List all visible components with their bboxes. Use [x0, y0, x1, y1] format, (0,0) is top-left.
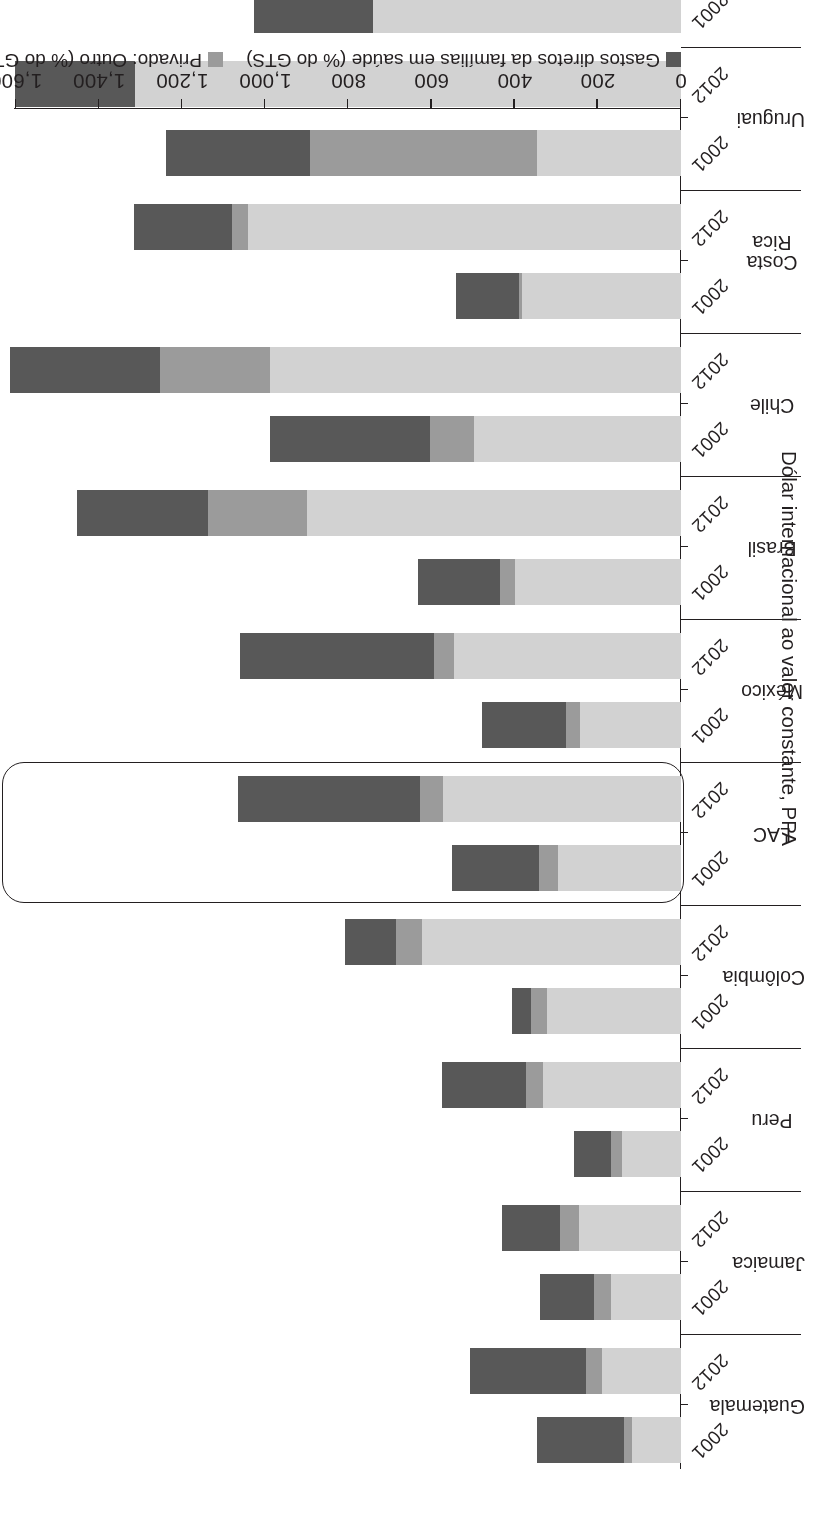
group-separator [681, 1334, 801, 1335]
year-label-uruguai-2001: 2001 [682, 126, 739, 183]
bar-segment-publico [307, 490, 681, 536]
bar-segment-publico [547, 988, 681, 1034]
category-label-lac: LAC [739, 825, 805, 845]
value-axis-tick-label: 1,600 [0, 69, 82, 93]
bar-segment-privado_outro [430, 416, 474, 462]
category-label-costa-rica: Costa Rica [739, 233, 805, 274]
bar-segment-publico [632, 1417, 681, 1463]
bar-méxico-2012 [240, 633, 681, 679]
category-tick [681, 117, 688, 118]
bar-méxico-2001 [482, 702, 681, 748]
category-tick [681, 1261, 688, 1262]
bar-segment-gastos_diretos [574, 1131, 611, 1177]
category-label-uruguai: Uruguai [739, 110, 805, 130]
bar-segment-gastos_diretos [540, 1274, 594, 1320]
bar-guatemala-2001 [537, 1417, 681, 1463]
bar-segment-gastos_diretos [502, 1205, 560, 1251]
bar-segment-privado_outro [434, 633, 454, 679]
bar-segment-gastos_diretos [537, 1417, 625, 1463]
bar-chile-2012 [10, 347, 681, 393]
bar-segment-privado_outro [500, 559, 515, 605]
bar-chile-2001 [270, 416, 681, 462]
bar-segment-privado_outro [586, 1348, 602, 1394]
bar-segment-publico [580, 702, 681, 748]
legend-item: Gastos diretos da famílias em saúde (% d… [246, 49, 681, 71]
group-separator [681, 1191, 801, 1192]
group-separator [681, 905, 801, 906]
bar-segment-gastos_diretos [512, 988, 532, 1034]
category-tick [681, 1404, 688, 1405]
bar-peru-2012 [442, 1062, 681, 1108]
bar-segment-gastos_diretos [456, 273, 519, 319]
year-label-jamaica-2012: 2012 [682, 1201, 739, 1258]
bar-costa-rica-2001 [456, 273, 681, 319]
year-label-costa-rica-2001: 2001 [682, 269, 739, 326]
category-label-guatemala: Guatemala [739, 1397, 805, 1417]
year-label-colômbia-2001: 2001 [682, 984, 739, 1041]
bar-peru-2001 [574, 1131, 681, 1177]
category-tick [681, 546, 688, 547]
group-separator [681, 619, 801, 620]
legend-swatch-icon [208, 53, 223, 68]
group-separator [681, 190, 801, 191]
bar-segment-gastos_diretos [270, 416, 430, 462]
year-label-costa-rica-2012: 2012 [682, 200, 739, 257]
bar-segment-publico [373, 0, 681, 33]
bar-segment-privado_outro [232, 204, 247, 250]
bar-segment-privado_outro [531, 988, 547, 1034]
year-label-chile-2001: 2001 [682, 412, 739, 469]
bar-argentina-2001 [254, 0, 681, 33]
group-separator [681, 762, 801, 763]
bar-segment-gastos_diretos [77, 490, 208, 536]
bar-segment-privado_outro [560, 1205, 579, 1251]
bar-colômbia-2001 [512, 988, 681, 1034]
bar-jamaica-2012 [502, 1205, 681, 1251]
category-tick [681, 689, 688, 690]
bar-segment-publico [543, 1062, 681, 1108]
year-label-méxico-2001: 2001 [682, 698, 739, 755]
bar-colômbia-2012 [345, 919, 681, 965]
bar-segment-privado_outro [566, 702, 580, 748]
bar-segment-publico [537, 130, 681, 176]
value-axis-baseline [14, 108, 681, 109]
bar-segment-privado_outro [611, 1131, 622, 1177]
bar-segment-privado_outro [594, 1274, 611, 1320]
year-label-peru-2001: 2001 [682, 1127, 739, 1184]
bar-segment-publico [474, 416, 681, 462]
category-label-jamaica: Jamaica [739, 1254, 805, 1274]
year-label-chile-2012: 2012 [682, 343, 739, 400]
bar-segment-privado_outro [160, 347, 270, 393]
year-label-argentina-2001: 2001 [682, 0, 739, 39]
bar-guatemala-2012 [470, 1348, 681, 1394]
plot-area: Dólar internacional ao valor constante, … [0, 0, 827, 1521]
group-separator [681, 476, 801, 477]
year-label-guatemala-2012: 2012 [682, 1344, 739, 1401]
bar-uruguai-2001 [166, 130, 681, 176]
legend-item: Privado: Outro (% do GTS) [0, 49, 223, 71]
year-label-guatemala-2001: 2001 [682, 1413, 739, 1470]
category-tick [681, 975, 688, 976]
year-label-brasil-2012: 2012 [682, 486, 739, 543]
bar-segment-publico [515, 559, 681, 605]
bar-segment-publico [602, 1348, 681, 1394]
bar-segment-privado_outro [625, 1417, 632, 1463]
bar-brasil-2001 [418, 559, 682, 605]
bar-segment-gastos_diretos [240, 633, 434, 679]
year-label-brasil-2001: 2001 [682, 555, 739, 612]
year-label-colômbia-2012: 2012 [682, 915, 739, 972]
category-tick [681, 1118, 688, 1119]
bar-segment-privado_outro [526, 1062, 543, 1108]
year-label-méxico-2012: 2012 [682, 629, 739, 686]
category-tick [681, 403, 688, 404]
bar-segment-gastos_diretos [134, 204, 232, 250]
bar-segment-privado_outro [310, 130, 537, 176]
category-tick [681, 260, 688, 261]
chart-figure: Dólar internacional ao valor constante, … [0, 0, 827, 1521]
legend-label: Gastos diretos da famílias em saúde (% d… [246, 49, 660, 71]
group-separator [681, 47, 801, 48]
bar-segment-publico [270, 347, 681, 393]
category-label-brasil: Brasil [739, 539, 805, 559]
year-label-lac-2001: 2001 [682, 841, 739, 898]
bar-segment-gastos_diretos [166, 130, 310, 176]
year-label-jamaica-2001: 2001 [682, 1270, 739, 1327]
